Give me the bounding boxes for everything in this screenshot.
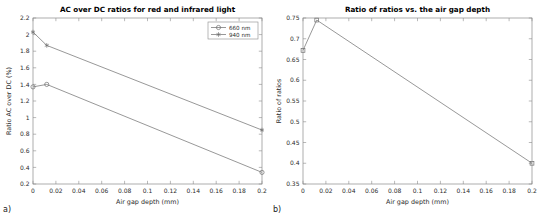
series-polyline (33, 84, 262, 172)
y-tick-label: 0.35 (286, 180, 300, 187)
x-tick-label: 0.08 (118, 187, 132, 194)
series-polyline (33, 32, 262, 130)
x-tick-label: 0.1 (413, 187, 423, 194)
y-tick-label: 1.4 (20, 81, 30, 88)
y-tick-label: 0.45 (286, 139, 300, 146)
x-tick-label: 0.14 (187, 187, 201, 194)
chart-title: Ratio of ratios vs. the air gap depth (345, 5, 490, 14)
panel-b-label: b) (273, 205, 281, 214)
series-2 (31, 30, 264, 133)
x-tick-label: 0.02 (49, 187, 63, 194)
series-1 (31, 82, 264, 174)
x-tick-label: 0.2 (257, 187, 267, 194)
figure-container: AC over DC ratios for red and infrared l… (0, 0, 540, 216)
y-tick-label: 0.75 (286, 14, 300, 21)
y-tick-label: 0.7 (290, 35, 300, 42)
x-tick-label: 0.14 (457, 187, 471, 194)
y-tick-label: 0.5 (290, 118, 300, 125)
panel-a-label: a) (3, 205, 11, 214)
x-tick-label: 0.08 (388, 187, 402, 194)
data-point-marker (260, 128, 264, 133)
series-polyline (303, 20, 532, 163)
series-1 (301, 18, 534, 165)
x-tick-label: 0.16 (210, 187, 224, 194)
x-tick-label: 0.18 (502, 187, 516, 194)
x-tick-label: 0.04 (72, 187, 86, 194)
chart-legend: 660 nm940 nm (208, 22, 258, 39)
plot-frame (33, 18, 262, 184)
y-tick-label: 1.8 (20, 47, 30, 54)
x-tick-label: 0.06 (95, 187, 109, 194)
legend-entry-label: 660 nm (229, 25, 250, 31)
y-tick-label: 1.2 (20, 97, 30, 104)
y-axis-label: Ratio AC over DC (%) (5, 67, 13, 135)
panel-a: AC over DC ratios for red and infrared l… (0, 0, 270, 216)
x-axis-label: Air gap depth (mm) (116, 198, 179, 206)
x-tick-label: 0.02 (319, 187, 333, 194)
y-tick-label: 0.4 (290, 159, 300, 166)
x-tick-label: 0.12 (164, 187, 178, 194)
y-tick-label: 0.8 (20, 130, 30, 137)
x-tick-label: 0.16 (480, 187, 494, 194)
y-tick-label: 2.2 (20, 14, 30, 21)
y-tick-label: 0.65 (286, 56, 300, 63)
x-tick-label: 0.1 (143, 187, 153, 194)
y-axis: 0.350.40.450.50.550.60.650.70.75 (286, 14, 532, 187)
plot-b-canvas[interactable]: Ratio of ratios vs. the air gap depth00.… (270, 0, 540, 216)
panel-b: Ratio of ratios vs. the air gap depth00.… (270, 0, 540, 216)
x-axis: 00.020.040.060.080.10.120.140.160.180.2 (31, 18, 267, 194)
legend-entry-label: 940 nm (229, 32, 250, 38)
x-axis: 00.020.040.060.080.10.120.140.160.180.2 (301, 18, 537, 194)
x-tick-label: 0 (301, 187, 305, 194)
x-tick-label: 0.2 (527, 187, 537, 194)
y-axis: 0.20.40.60.811.21.41.61.822.2 (20, 14, 262, 187)
y-tick-label: 0.6 (20, 147, 30, 154)
x-tick-label: 0.06 (365, 187, 379, 194)
y-tick-label: 0.2 (20, 180, 30, 187)
x-tick-label: 0 (31, 187, 35, 194)
y-tick-label: 2 (26, 31, 30, 38)
chart-title: AC over DC ratios for red and infrared l… (60, 5, 236, 14)
y-tick-label: 1.6 (20, 64, 30, 71)
x-axis-label: Air gap depth (mm) (386, 198, 449, 206)
y-tick-label: 0.6 (290, 76, 300, 83)
x-tick-label: 0.18 (232, 187, 246, 194)
plot-frame (303, 18, 532, 184)
x-tick-label: 0.12 (434, 187, 448, 194)
plot-a-canvas[interactable]: AC over DC ratios for red and infrared l… (0, 0, 270, 216)
y-tick-label: 1 (26, 114, 30, 121)
y-tick-label: 0.55 (286, 97, 300, 104)
x-tick-label: 0.04 (342, 187, 356, 194)
y-axis-label: Ratio of ratios (275, 78, 283, 123)
y-tick-label: 0.4 (20, 164, 30, 171)
